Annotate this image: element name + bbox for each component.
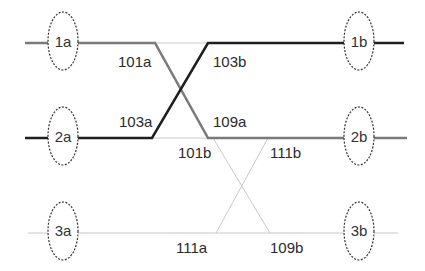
node-label-3a: 3a — [55, 223, 72, 238]
node-label-2a: 2a — [55, 129, 72, 144]
node-label-3b: 3b — [351, 223, 368, 238]
edge-label-111a: 111a — [176, 240, 207, 255]
node-label-1b: 1b — [351, 34, 368, 49]
edge-label-109a: 109a — [213, 114, 246, 129]
edge-label-109b: 109b — [270, 240, 303, 255]
edge-label-103b: 103b — [213, 54, 246, 69]
node-label-2b: 2b — [351, 129, 368, 144]
edge-label-101b: 101b — [178, 145, 211, 160]
node-label-1a: 1a — [55, 34, 72, 49]
edge-label-103a: 103a — [119, 114, 152, 129]
edge-label-101a: 101a — [118, 54, 151, 69]
edge-label-111b: 111b — [270, 145, 301, 160]
